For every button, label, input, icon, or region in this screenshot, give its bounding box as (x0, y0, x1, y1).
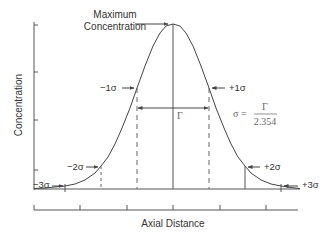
y-axis (34, 22, 38, 190)
plus-2-sigma-label: +2σ (264, 161, 281, 172)
minus-1-sigma-label: −1σ (100, 82, 117, 93)
minus-2-sigma-label: −2σ (67, 161, 84, 172)
formula-denominator: 2.354 (254, 116, 277, 127)
y-axis-label: Concentration (13, 74, 24, 136)
formula-numerator: Γ (262, 101, 268, 112)
sigma-formula: σ = Γ 2.354 (233, 101, 277, 127)
plus-3-sigma-label: +3σ (302, 179, 319, 190)
minus-3-sigma-label: −3σ (33, 179, 50, 190)
peak-label-line2: Concentration (84, 21, 146, 32)
fwhm-label: Γ (177, 110, 183, 121)
x-axis-label: Axial Distance (141, 218, 205, 229)
formula-lhs: σ = (233, 108, 247, 119)
x-axis (34, 205, 298, 210)
gaussian-diagram: Concentration Axial Distance Γ Maximum C… (0, 0, 336, 241)
plus-1-sigma-label: +1σ (229, 82, 246, 93)
peak-label-line1: Maximum (93, 9, 136, 20)
